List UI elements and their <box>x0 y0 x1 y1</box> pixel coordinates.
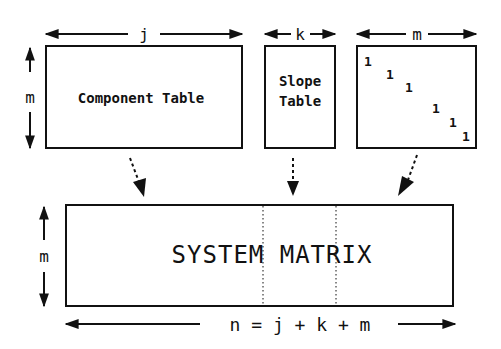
diag-6: 1 <box>462 129 470 144</box>
m-label-bottom: m <box>39 247 49 266</box>
j-width-arrow: j <box>46 25 242 44</box>
identity-block: 1 1 1 1 1 1 <box>357 46 476 148</box>
component-table: Component Table <box>46 46 242 148</box>
connector-arrows <box>130 155 417 197</box>
diag-5: 1 <box>449 115 457 130</box>
m-height-arrow-top: m <box>25 48 35 148</box>
k-width-arrow: k <box>265 25 335 44</box>
m-height-arrow-bottom: m <box>39 207 49 306</box>
system-matrix: SYSTEM MATRIX <box>66 205 453 306</box>
diag-2: 1 <box>386 67 394 82</box>
slope-table: Slope Table <box>265 46 335 148</box>
slope-table-label-1: Slope <box>279 73 321 89</box>
k-label: k <box>295 25 305 44</box>
diag-1: 1 <box>364 54 372 69</box>
slope-table-label-2: Table <box>279 93 321 109</box>
diag-3: 1 <box>405 80 413 95</box>
m-width-label: m <box>412 25 422 44</box>
system-matrix-label: SYSTEM MATRIX <box>172 241 373 269</box>
j-label: j <box>139 25 149 44</box>
n-label: n = j + k + m <box>230 314 371 335</box>
system-matrix-diagram: Component Table j m Slope Table k 1 1 1 … <box>0 0 501 349</box>
component-table-label: Component Table <box>78 90 204 106</box>
m-width-arrow: m <box>357 25 476 44</box>
diag-4: 1 <box>432 101 440 116</box>
n-width-arrow: n = j + k + m <box>66 314 455 335</box>
arrow-identity-to-matrix <box>408 155 417 180</box>
m-label-top: m <box>25 88 35 107</box>
